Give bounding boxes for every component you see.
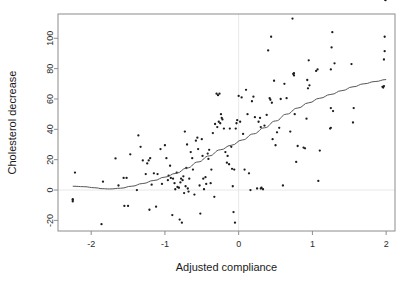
data-point	[145, 173, 147, 175]
data-point	[184, 185, 186, 187]
data-point	[276, 131, 278, 133]
data-point	[186, 143, 188, 145]
data-point	[195, 140, 197, 142]
data-point	[308, 84, 310, 86]
y-axis-ticks: -20020406080100	[45, 31, 58, 227]
data-point	[330, 46, 332, 48]
x-tick-label: -2	[87, 239, 95, 249]
data-point	[213, 196, 215, 198]
data-point	[102, 181, 104, 183]
data-point	[384, 0, 386, 1]
data-point	[172, 178, 174, 180]
data-point	[262, 188, 264, 190]
data-point	[273, 80, 275, 82]
data-point	[191, 157, 193, 159]
data-point	[226, 162, 228, 164]
data-point	[207, 152, 209, 154]
data-point	[316, 68, 318, 70]
data-point	[220, 113, 222, 115]
data-point	[270, 36, 272, 38]
data-point	[148, 159, 150, 161]
data-point	[207, 158, 209, 160]
data-point	[231, 168, 233, 170]
data-point	[248, 172, 250, 174]
data-point	[331, 31, 333, 33]
data-point	[330, 127, 332, 129]
data-point	[280, 98, 282, 100]
data-point	[245, 89, 247, 91]
x-tick-label: -1	[161, 239, 169, 249]
data-point	[205, 183, 207, 185]
data-point	[182, 175, 184, 177]
data-point	[171, 214, 173, 216]
data-point	[164, 144, 166, 146]
data-point	[201, 155, 203, 157]
data-point	[221, 118, 223, 120]
data-point	[228, 163, 230, 165]
data-point	[305, 118, 307, 120]
data-point	[151, 184, 153, 186]
data-point	[282, 184, 284, 186]
data-point	[257, 121, 259, 123]
data-point	[136, 189, 138, 191]
data-point	[285, 97, 287, 99]
data-point	[246, 113, 248, 115]
x-tick-label: 2	[384, 239, 389, 249]
data-point	[184, 130, 186, 132]
data-point	[269, 99, 271, 101]
data-point	[384, 50, 386, 52]
data-point	[146, 162, 148, 164]
data-point	[289, 130, 291, 132]
data-point	[233, 168, 235, 170]
y-tick-label: 100	[45, 31, 55, 46]
data-point	[330, 68, 332, 70]
data-point	[169, 165, 171, 167]
data-point	[218, 93, 220, 95]
data-point	[350, 63, 352, 65]
data-point	[123, 205, 125, 207]
data-point	[251, 100, 253, 102]
data-point	[267, 49, 269, 51]
data-point	[254, 116, 256, 118]
data-point	[72, 200, 74, 202]
data-point	[161, 183, 163, 185]
y-tick-label: 80	[45, 64, 55, 74]
data-points-group	[72, 0, 387, 225]
data-point	[122, 177, 124, 179]
data-point	[173, 182, 175, 184]
data-point	[229, 127, 231, 129]
data-point	[202, 178, 204, 180]
data-point	[153, 172, 155, 174]
data-point	[210, 182, 212, 184]
y-tick-label: 0	[45, 188, 55, 193]
data-point	[224, 151, 226, 153]
data-point	[214, 123, 216, 125]
reference-lines	[58, 14, 395, 231]
data-point	[187, 190, 189, 192]
data-point	[308, 59, 310, 61]
x-tick-label: 0	[236, 239, 241, 249]
data-point	[167, 179, 169, 181]
data-point	[297, 145, 299, 147]
data-point	[204, 176, 206, 178]
chart-container: -2-1012 -20020406080100 Adjusted complia…	[0, 0, 416, 283]
data-point	[239, 121, 241, 123]
y-tick-label: 40	[45, 124, 55, 134]
data-point	[256, 187, 258, 189]
data-point	[260, 126, 262, 128]
data-point	[240, 96, 242, 98]
data-point	[383, 58, 385, 60]
data-point	[319, 149, 321, 151]
data-point	[293, 74, 295, 76]
data-point	[159, 148, 161, 150]
data-point	[142, 159, 144, 161]
data-point	[149, 157, 151, 159]
lowess-smooth-curve	[73, 80, 386, 189]
scatter-plot: -2-1012 -20020406080100 Adjusted complia…	[0, 0, 416, 283]
data-point	[333, 62, 335, 64]
data-point	[201, 138, 203, 140]
data-point	[230, 146, 232, 148]
data-point	[252, 96, 254, 98]
data-point	[170, 177, 172, 179]
data-point	[274, 144, 276, 146]
